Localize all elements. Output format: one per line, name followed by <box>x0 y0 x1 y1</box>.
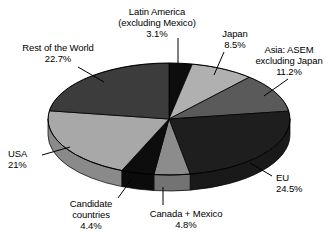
slice-label-asia-asem-value: 11.2% <box>248 66 330 77</box>
slice-label-candidate-countries: Candidate countries 4.4% <box>50 198 132 231</box>
slice-label-canada-mexico: Canada + Mexico 4.8% <box>134 208 238 230</box>
slice-label-rest-of-world-line1: Rest of the World <box>6 42 110 53</box>
slice-label-candidate-countries-line1: Candidate <box>50 198 132 209</box>
pie-chart-container: Latin America (excluding Mexico) 3.1% Ja… <box>0 0 331 245</box>
slice-label-asia-asem: Asia: ASEM excluding Japan 11.2% <box>248 44 330 77</box>
slice-label-eu-value: 24.5% <box>276 183 326 194</box>
slice-label-japan-line1: Japan <box>212 28 258 39</box>
slice-label-latin-america-line2: (excluding Mexico) <box>96 17 218 28</box>
slice-label-latin-america: Latin America (excluding Mexico) 3.1% <box>96 6 218 39</box>
slice-label-canada-mexico-line1: Canada + Mexico <box>134 208 238 219</box>
slice-label-eu-line1: EU <box>276 172 326 183</box>
slice-label-canada-mexico-value: 4.8% <box>134 219 238 230</box>
slice-label-asia-asem-line1: Asia: ASEM <box>248 44 330 55</box>
slice-label-asia-asem-line2: excluding Japan <box>248 55 330 66</box>
pie-slices <box>48 63 290 175</box>
slice-label-latin-america-value: 3.1% <box>96 28 218 39</box>
slice-label-rest-of-world-value: 22.7% <box>6 53 110 64</box>
slice-label-usa-line1: USA <box>8 148 48 159</box>
slice-label-usa: USA 21% <box>8 148 48 170</box>
slice-label-candidate-countries-value: 4.4% <box>50 220 132 231</box>
slice-label-eu: EU 24.5% <box>276 172 326 194</box>
slice-label-candidate-countries-line2: countries <box>50 209 132 220</box>
slice-label-latin-america-line1: Latin America <box>96 6 218 17</box>
pie-wall-canada-mexico <box>154 174 190 191</box>
slice-label-usa-value: 21% <box>8 159 48 170</box>
pie-slice-rest-of-world <box>49 63 169 119</box>
slice-label-rest-of-world: Rest of the World 22.7% <box>6 42 110 64</box>
